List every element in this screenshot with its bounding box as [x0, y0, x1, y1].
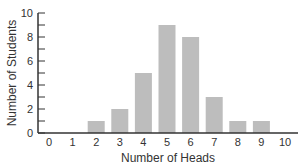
x-tick-label: 7 — [211, 136, 217, 148]
y-tick-label: 0 — [27, 127, 33, 139]
y-tick-label: 8 — [27, 31, 33, 43]
bar-chart: 0246810 012345678910 Number of Heads Num… — [0, 0, 302, 167]
x-axis-title: Number of Heads — [121, 151, 215, 165]
bar-3 — [111, 109, 128, 133]
x-axis: 012345678910 — [38, 133, 298, 148]
x-tick-label: 1 — [70, 136, 76, 148]
bar-5 — [159, 25, 176, 133]
bar-9 — [253, 121, 270, 133]
y-axis-title: Number of Students — [5, 20, 19, 127]
y-tick-label: 4 — [27, 79, 33, 91]
bar-4 — [135, 73, 152, 133]
x-tick-label: 4 — [140, 136, 146, 148]
x-tick-label: 8 — [235, 136, 241, 148]
y-tick-label: 6 — [27, 55, 33, 67]
y-axis: 0246810 — [21, 7, 45, 139]
x-tick-label: 6 — [188, 136, 194, 148]
bars-group — [88, 25, 270, 133]
bar-7 — [206, 97, 223, 133]
x-tick-label: 3 — [117, 136, 123, 148]
x-tick-label: 10 — [279, 136, 291, 148]
bar-2 — [88, 121, 105, 133]
x-tick-label: 9 — [258, 136, 264, 148]
y-tick-label: 2 — [27, 103, 33, 115]
bar-6 — [182, 37, 199, 133]
x-tick-label: 5 — [164, 136, 170, 148]
x-tick-label: 0 — [46, 136, 52, 148]
x-tick-label: 2 — [93, 136, 99, 148]
y-tick-label: 10 — [21, 7, 33, 19]
bar-8 — [229, 121, 246, 133]
